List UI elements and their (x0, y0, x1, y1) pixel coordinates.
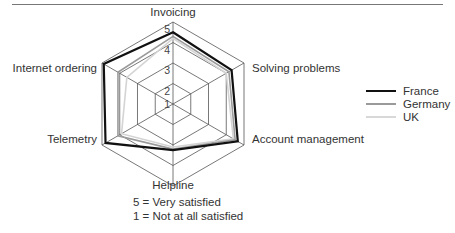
legend-label: France (403, 85, 439, 97)
scale-note-min: 1 = Not at all satisfied (133, 210, 243, 222)
legend-swatch-france (366, 90, 396, 92)
series-uk (122, 38, 234, 147)
series-germany (118, 36, 235, 149)
axis-label-account-management: Account management (252, 133, 365, 145)
axis-label-solving-problems: Solving problems (252, 62, 340, 74)
tick-label: 5 (164, 23, 170, 35)
legend: France Germany UK (366, 84, 450, 123)
legend-label: Germany (403, 98, 450, 110)
axis-label-telemetry: Telemetry (47, 133, 97, 145)
legend-swatch-germany (366, 103, 396, 105)
tick-label: 2 (164, 85, 170, 97)
legend-item-france: France (366, 84, 450, 97)
axis-label-helpline: Helpline (152, 179, 194, 191)
legend-label: UK (403, 111, 419, 123)
tick-label: 3 (164, 64, 170, 76)
axis-label-internet-ordering: Internet ordering (13, 62, 97, 74)
tick-label: 4 (164, 44, 170, 56)
legend-swatch-uk (366, 116, 396, 118)
tick-label: 1 (164, 98, 170, 110)
axis-label-invoicing: Invoicing (150, 6, 195, 18)
scale-note-max: 5 = Very satisfied (133, 196, 221, 208)
legend-item-germany: Germany (366, 97, 450, 110)
legend-item-uk: UK (366, 110, 450, 123)
